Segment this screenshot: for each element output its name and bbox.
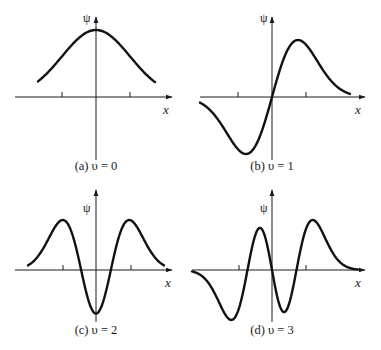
panel-caption: (a) υ = 0 [75,159,118,173]
panel-caption: (b) υ = 1 [250,159,293,173]
x-axis-label: x [354,275,361,290]
psi-axis-label: ψ [260,11,268,25]
panel-b: x ψ (b) υ = 1 [200,11,365,173]
panel-caption: (d) υ = 3 [250,323,293,337]
panel-c: x ψ (c) υ = 2 [15,190,172,337]
panel-a: x ψ (a) υ = 0 [15,11,172,173]
x-axis-label: x [162,102,169,117]
panel-d: x ψ (d) υ = 3 [192,190,365,337]
wavefunction-figure: x ψ (a) υ = 0 x ψ (b) υ = 1 x ψ (c) υ = … [0,0,381,350]
psi-axis-label: ψ [260,201,268,215]
x-axis-label: x [164,275,171,290]
x-axis-label: x [354,102,361,117]
psi-axis-label: ψ [83,11,91,25]
panel-caption: (c) υ = 2 [75,323,118,337]
psi-axis-label: ψ [83,201,91,215]
